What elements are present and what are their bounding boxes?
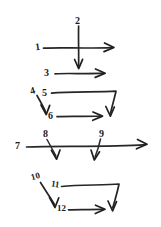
arrow-7-group [27,140,148,149]
arrow-11-head [108,201,117,211]
arrow-11-polyline [62,184,120,208]
label-8: 8 [43,129,48,139]
arrow-9-group [91,139,101,160]
label-2: 2 [75,16,80,26]
arrow-8-shaft [47,140,56,157]
label-7: 7 [15,141,20,151]
diagram-strokes [0,0,161,227]
diagram-canvas: 1 2 3 4 5 6 7 8 9 10 11 12 [0,0,161,227]
label-11: 11 [50,179,60,189]
label-6: 6 [48,111,53,121]
arrow-12-group [69,205,106,213]
label-12: 12 [57,204,66,213]
arrow-8-group [47,140,60,160]
arrow-5-polyline [52,91,117,113]
arrow-11-group [62,184,120,211]
arrow-3-shaft [55,73,104,74]
arrow-5-group [52,91,117,116]
arrow-7-shaft [27,145,146,147]
label-5: 5 [42,88,47,98]
label-1: 1 [34,42,40,53]
arrow-3-group [55,69,105,77]
arrow-5-head [106,107,115,117]
label-9: 9 [99,129,104,139]
arrow-6-shaft [57,116,101,117]
arrow-12-shaft [69,209,104,210]
arrow-6-group [57,112,103,120]
label-3: 3 [44,68,49,78]
